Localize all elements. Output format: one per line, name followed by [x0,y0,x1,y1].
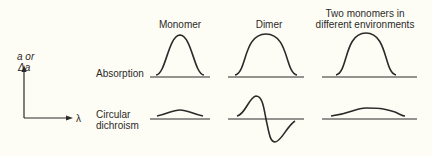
absorption-curve-monomer [156,35,204,75]
column-header-two-monomers-line1: Two monomers in [326,8,405,19]
x-axis-arrowhead-icon [66,116,73,121]
column-header-dimer: Dimer [256,19,283,30]
row-label-cd-line2: dichroism [96,120,139,131]
y-axis-label-line1: a or [17,51,34,62]
cd-curve-two-monomers [331,108,405,116]
column-header-monomer: Monomer [159,19,201,30]
row-label-absorption: Absorption [96,68,144,79]
cd-curve-monomer [157,110,203,116]
absorption-curve-two-monomers [336,33,396,75]
column-header-two-monomers-line2: different environments [316,19,415,30]
x-axis-label: λ [76,113,81,124]
y-axis-label-line2: Δa [18,62,30,73]
row-label-cd-line1: Circular [96,109,130,120]
absorption-curve-dimer [235,34,297,75]
